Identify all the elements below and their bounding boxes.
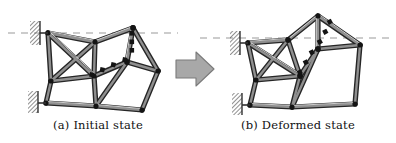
transformation-arrow (176, 52, 214, 86)
panel-b-supports (230, 31, 250, 115)
panel-a-truss (28, 21, 161, 113)
support-upper-left-a (30, 21, 48, 45)
support-lower-left-b (232, 93, 250, 115)
caption-initial-state: (a) Initial state (0, 118, 196, 132)
caption-deformed-state: (b) Deformed state (200, 118, 396, 132)
figure-container: (a) Initial state (b) Deformed state (0, 0, 396, 143)
support-upper-left-b (230, 31, 248, 55)
panel-b-truss (230, 13, 363, 115)
support-lower-left-a (28, 91, 46, 113)
arrow-shape (176, 52, 214, 86)
